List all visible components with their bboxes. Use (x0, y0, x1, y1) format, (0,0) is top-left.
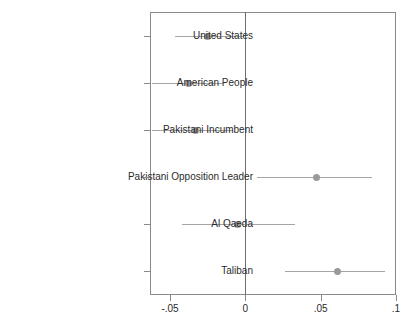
x-axis-tick-label: 0 (243, 303, 249, 314)
y-axis-tick (144, 130, 150, 131)
x-axis-tick-label: .05 (314, 303, 328, 314)
zero-reference-line (245, 12, 246, 295)
x-axis-tick (170, 295, 171, 301)
y-axis-tick (144, 271, 150, 272)
x-axis-tick-label: .1 (392, 303, 400, 314)
y-axis-category-label: Al Qaeda (211, 219, 253, 229)
y-axis-category-label: Taliban (221, 266, 253, 276)
y-axis-tick (144, 83, 150, 84)
coefficient-plot: United StatesAmerican PeoplePakistani In… (0, 0, 411, 320)
x-axis-tick (245, 295, 246, 301)
y-axis-category-label: American People (177, 78, 253, 88)
plot-frame (150, 12, 396, 295)
x-axis-tick (321, 295, 322, 301)
y-axis-tick (144, 177, 150, 178)
y-axis-category-label: Pakistani Incumbent (163, 125, 253, 135)
x-axis-tick-label: -.05 (161, 303, 178, 314)
y-axis-tick (144, 224, 150, 225)
y-axis-category-label: United States (193, 31, 253, 41)
estimate-point-marker (313, 174, 320, 181)
y-axis-tick (144, 36, 150, 37)
x-axis-tick (396, 295, 397, 301)
